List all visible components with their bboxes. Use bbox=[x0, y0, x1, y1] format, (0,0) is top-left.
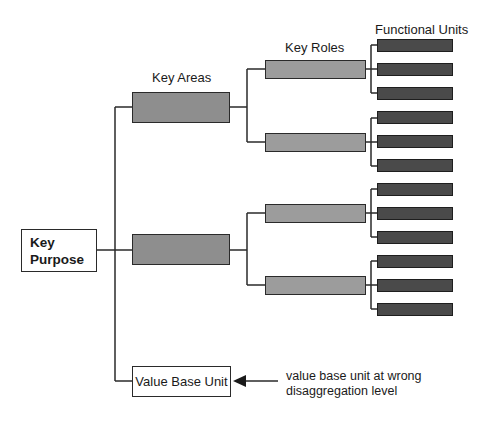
functional-unit-box-1 bbox=[377, 39, 453, 52]
key-role-box-4 bbox=[265, 276, 366, 295]
functional-unit-box-5 bbox=[377, 135, 453, 148]
functional-unit-box-6 bbox=[377, 159, 453, 172]
key-roles-header: Key Roles bbox=[285, 40, 344, 55]
functional-unit-box-11 bbox=[377, 279, 453, 292]
key-purpose-line1: Key bbox=[30, 234, 96, 251]
annotation-line2: disaggregation level bbox=[286, 384, 422, 399]
key-role-box-1 bbox=[265, 60, 366, 79]
functional-unit-box-10 bbox=[377, 255, 453, 268]
functional-unit-box-7 bbox=[377, 183, 453, 196]
functional-unit-box-12 bbox=[377, 303, 453, 316]
key-role-box-3 bbox=[265, 204, 366, 223]
key-areas-header: Key Areas bbox=[152, 70, 211, 85]
value-base-unit-box: Value Base Unit bbox=[132, 366, 231, 397]
annotation-line1: value base unit at wrong bbox=[286, 369, 422, 384]
functional-unit-box-9 bbox=[377, 231, 453, 244]
functional-unit-box-2 bbox=[377, 63, 453, 76]
value-base-unit-label: Value Base Unit bbox=[135, 374, 227, 389]
functional-unit-box-4 bbox=[377, 111, 453, 124]
annotation-text: value base unit at wrong disaggregation … bbox=[286, 369, 422, 399]
functional-unit-box-8 bbox=[377, 207, 453, 220]
key-area-box-2 bbox=[132, 234, 230, 265]
key-purpose-box: Key Purpose bbox=[21, 229, 97, 272]
functional-unit-box-3 bbox=[377, 87, 453, 100]
key-role-box-2 bbox=[265, 133, 366, 152]
functional-units-header: Functional Units bbox=[375, 22, 468, 37]
key-area-box-1 bbox=[132, 92, 230, 123]
arrow-head-icon bbox=[233, 375, 246, 387]
key-purpose-line2: Purpose bbox=[30, 251, 96, 268]
